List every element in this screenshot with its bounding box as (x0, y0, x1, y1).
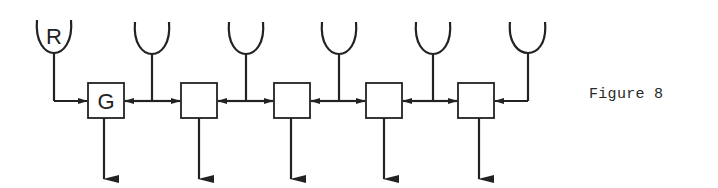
figure-caption: Figure 8 (589, 86, 663, 103)
box-3 (274, 83, 310, 179)
box-4 (366, 83, 402, 179)
junction-cup-5 (403, 22, 457, 101)
box-label-g: G (97, 89, 114, 114)
end-cup-6 (495, 22, 545, 101)
box-2 (181, 83, 217, 179)
junction-cup-2 (125, 22, 180, 101)
junction-cup-3 (218, 22, 273, 101)
cup-label-r: R (46, 24, 62, 49)
box-5 (458, 83, 494, 179)
junction-cup-4 (311, 22, 365, 101)
